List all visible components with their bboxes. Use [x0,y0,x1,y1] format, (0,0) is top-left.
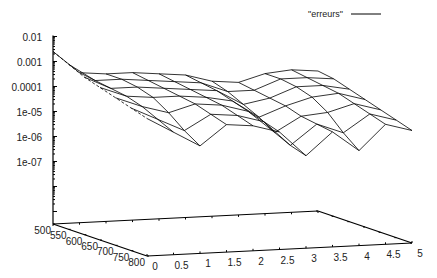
y-tick-label: 650 [81,241,98,252]
legend: "erreurs" [308,9,381,19]
z-tick-label: 0.01 [23,32,43,43]
x-tick-label: 1.5 [228,257,242,268]
z-tick-label: 0.0001 [11,82,42,93]
x-tick-label: 4.5 [387,249,401,260]
mesh-line-y [265,74,359,151]
mesh-line-y [106,74,200,146]
z-tick-label: 1e-05 [16,107,42,118]
surface-mesh [53,52,412,156]
x-tick-label: 3 [311,253,317,264]
mesh-line-y [318,71,412,131]
mesh-line-x [131,108,396,145]
z-tick-label: 1e-07 [16,157,42,168]
y-tick-label: 600 [66,236,83,247]
z-tick-label: 0.001 [17,57,42,68]
y-tick-label: 550 [50,230,67,241]
x-tick-label: 2.5 [281,255,295,266]
x-tick-label: 0 [152,261,158,272]
x-tick-label: 4 [364,251,370,262]
x-tick-label: 0.5 [175,260,189,271]
y-tick-label: 500 [34,225,51,236]
mesh-line-x [147,119,412,156]
y-tick-label: 700 [97,246,114,257]
mesh-line-y [239,82,333,131]
y-tick-label: 750 [113,252,130,263]
x-tick-label: 5 [417,248,423,259]
x-tick-label: 2 [258,256,264,267]
z-axis [53,36,57,225]
x-tick-label: 1 [205,258,211,269]
z-tick-label: 1e-06 [16,132,42,143]
legend-label: "erreurs" [308,9,343,19]
x-tick-label: 3.5 [334,252,348,263]
y-tick-label: 800 [128,257,145,268]
surface-plot: 00.511.522.533.544.555005506006507007508… [0,0,437,278]
